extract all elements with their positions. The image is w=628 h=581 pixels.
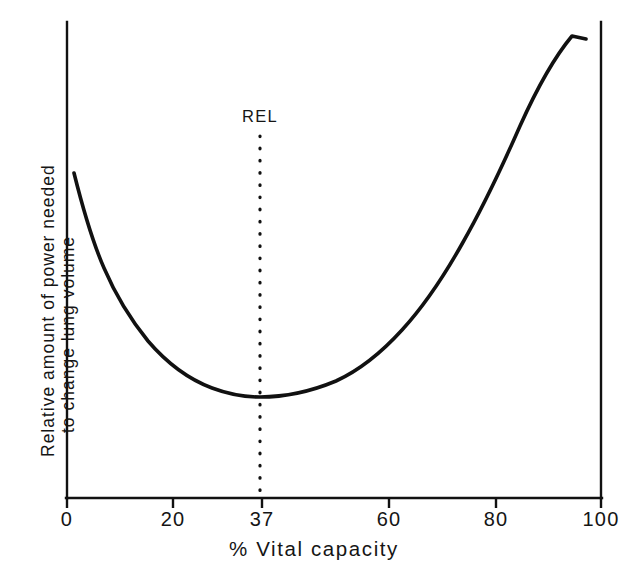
rel-annotation-label: REL	[242, 107, 278, 126]
x-tick-label-0: 0	[61, 508, 73, 531]
power-vs-vital-capacity-curve	[74, 36, 586, 397]
x-tick-label-37: 37	[250, 508, 275, 531]
chart-canvas	[0, 0, 628, 581]
x-axis-title: % Vital capacity	[229, 537, 399, 561]
x-tick-label-80: 80	[484, 508, 509, 531]
x-tick-label-60: 60	[377, 508, 402, 531]
y-axis-title-line-2: to change lung volume	[58, 236, 79, 433]
chart-figure: 0 20 37 60 80 100 % Vital capacity REL R…	[0, 0, 628, 581]
x-tick-label-100: 100	[583, 508, 620, 531]
x-axis-ticks	[67, 498, 601, 508]
y-axis-title-line-1: Relative amount of power needed	[38, 164, 59, 457]
x-tick-label-20: 20	[161, 508, 186, 531]
